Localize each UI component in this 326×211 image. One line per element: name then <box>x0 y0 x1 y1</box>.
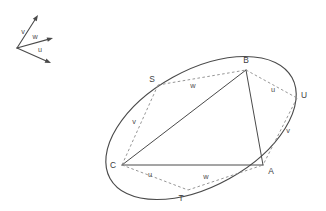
vertex-labels-group: A B C S T U <box>110 55 307 203</box>
dashed-t-a <box>188 165 263 190</box>
vector-w-arrowhead <box>47 37 53 41</box>
ellipse-outline <box>82 27 320 211</box>
edge-label-u-a: v <box>286 126 290 135</box>
edge-c-b <box>122 70 246 165</box>
dashed-s-b <box>158 70 246 85</box>
vector-legend-group: v w u <box>17 15 53 63</box>
edge-label-b-u: u <box>271 85 275 94</box>
edge-label-s-b: w <box>189 81 196 90</box>
vector-u-arrowhead <box>45 58 51 63</box>
dashed-u-a <box>263 98 297 165</box>
edge-label-c-t: u <box>148 170 152 179</box>
geometry-figure: v w u <box>0 0 326 211</box>
vector-v-label: v <box>21 27 25 36</box>
vector-u-group: u <box>17 45 51 63</box>
dashed-c-t <box>122 165 188 190</box>
edge-label-s-c: v <box>132 117 136 126</box>
vertex-label-a: A <box>268 166 274 176</box>
vertex-label-c: C <box>110 160 116 170</box>
dashed-s-c <box>122 85 158 165</box>
vertex-label-s: S <box>149 74 155 84</box>
figure-canvas: v w u <box>0 0 326 211</box>
vector-u-label: u <box>38 45 42 54</box>
vertex-label-t: T <box>178 193 183 203</box>
edge-label-t-a: w <box>202 172 209 181</box>
edge-labels-group: w u v v u w <box>132 81 290 181</box>
vector-u-shaft <box>17 48 48 62</box>
vertex-label-b: B <box>243 55 249 65</box>
vector-w-label: w <box>31 32 38 41</box>
edge-b-a <box>246 70 263 165</box>
vertex-label-u: U <box>301 90 307 100</box>
vector-v-arrowhead <box>33 15 38 21</box>
